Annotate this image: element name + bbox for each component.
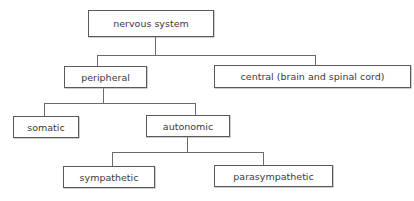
connector-peripheral-branch: [44, 103, 196, 104]
connector-root-branch: [97, 55, 316, 56]
node-label: parasympathetic: [233, 171, 313, 182]
node-autonomic: autonomic: [146, 115, 230, 137]
connector-to-autonomic: [195, 103, 196, 115]
node-label: sympathetic: [80, 172, 139, 183]
connector-autonomic-branch: [112, 152, 264, 153]
node-label: autonomic: [163, 121, 213, 132]
node-central: central (brain and spinal cord): [214, 65, 411, 88]
node-nervous-system: nervous system: [88, 10, 214, 37]
connector-to-peripheral: [97, 55, 98, 66]
connector-to-central: [315, 55, 316, 65]
connector-to-parasympathetic: [263, 152, 264, 165]
node-label: peripheral: [81, 72, 130, 83]
node-label: somatic: [27, 122, 64, 133]
connector-root-stem: [155, 37, 156, 55]
node-sympathetic: sympathetic: [63, 166, 155, 188]
node-somatic: somatic: [13, 116, 79, 138]
connector-autonomic-stem: [187, 137, 188, 152]
connector-to-somatic: [44, 103, 45, 116]
node-peripheral: peripheral: [64, 66, 147, 88]
node-label: nervous system: [113, 18, 189, 29]
node-label: central (brain and spinal cord): [241, 71, 385, 82]
connector-peripheral-stem: [103, 88, 104, 103]
node-parasympathetic: parasympathetic: [214, 165, 333, 187]
connector-to-sympathetic: [112, 152, 113, 166]
